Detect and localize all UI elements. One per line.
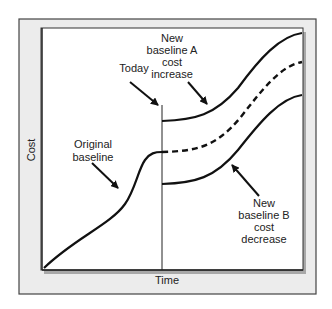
baseline-diagram: Today Original baseline New baseline A c… — [0, 0, 332, 309]
baseline-b-label-3: cost — [254, 221, 274, 233]
y-axis-label: Cost — [25, 139, 37, 162]
baseline-b-label-4: decrease — [241, 233, 286, 245]
original-label-2: baseline — [73, 151, 114, 163]
baseline-a-label-3: cost — [162, 56, 182, 68]
original-label-1: Original — [74, 138, 112, 150]
baseline-a-label-2: baseline A — [147, 44, 198, 56]
baseline-b-label-2: baseline B — [238, 209, 289, 221]
baseline-b-label-1: New — [253, 197, 275, 209]
baseline-a-label-1: New — [161, 32, 183, 44]
baseline-a-label-4: increase — [151, 68, 193, 80]
today-label: Today — [119, 62, 149, 74]
x-axis-label: Time — [155, 274, 179, 286]
